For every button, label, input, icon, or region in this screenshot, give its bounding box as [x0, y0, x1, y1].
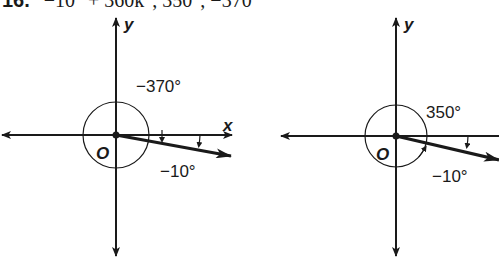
terminal-ray — [116, 135, 231, 156]
diagram-positive-350: y O 350° −10° — [281, 15, 499, 256]
terminal-ray — [396, 136, 499, 160]
reference-arc — [199, 135, 200, 145]
y-axis-label: y — [403, 15, 415, 34]
rotation-angle-label: −370° — [136, 77, 181, 96]
y-axis-label: y — [123, 15, 135, 34]
origin-dot — [113, 132, 120, 139]
reference-angle-label: −10° — [160, 162, 196, 181]
reference-arc — [467, 136, 468, 146]
origin-label: O — [96, 144, 109, 163]
ccw-arrowhead — [419, 148, 425, 157]
diagram-negative-370: y x O −370° −10° — [2, 15, 234, 256]
origin-dot — [393, 133, 400, 140]
rotation-angle-label: 350° — [426, 103, 461, 122]
origin-label: O — [376, 145, 389, 164]
x-axis-label: x — [222, 116, 234, 135]
angle-diagrams: y x O −370° −10° y O 350° −10° — [0, 0, 499, 257]
reference-angle-label: −10° — [432, 167, 468, 186]
